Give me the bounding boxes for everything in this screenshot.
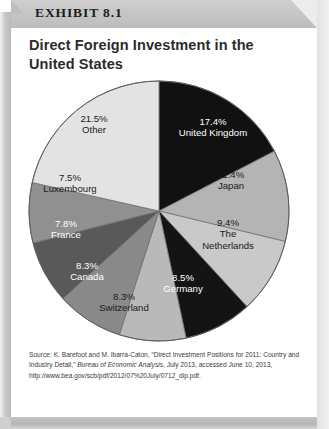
banner-notch-decoration (291, 0, 317, 28)
source-citation: Source: K. Barefoot and M. Ibarra-Caton,… (29, 350, 301, 381)
banner-fold-decoration (11, 0, 23, 13)
exhibit-title: Direct Foreign Investment in the United … (29, 36, 291, 74)
page-edge-right (317, 0, 329, 429)
exhibit-banner: EXHIBIT 8.1 (11, 0, 317, 28)
pie-chart-svg (28, 80, 290, 342)
page-edge-bottom (11, 417, 317, 429)
exhibit-label: EXHIBIT 8.1 (35, 5, 123, 21)
page-edge-corner (0, 417, 11, 429)
source-publication: Bureau of Economic Analysis (77, 361, 163, 368)
pie-chart: 17.4% United Kingdom 11.4% Japan 9.4% Th… (17, 80, 311, 342)
exhibit-card: Direct Foreign Investment in the United … (17, 28, 311, 417)
page-edge-left (0, 12, 11, 418)
pie-slice-group (29, 81, 289, 341)
exhibit-figure: EXHIBIT 8.1 Direct Foreign Investment in… (0, 0, 329, 429)
